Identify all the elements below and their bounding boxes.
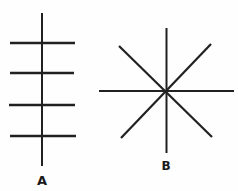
figure-b: B <box>99 28 234 173</box>
figure-a-label: A <box>37 173 47 188</box>
figure-b-label: B <box>161 159 170 173</box>
figures-svg: AB <box>0 0 238 191</box>
figure-a: A <box>9 13 76 188</box>
two-line-figures-diagram: AB <box>0 0 238 191</box>
